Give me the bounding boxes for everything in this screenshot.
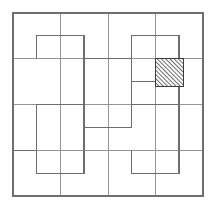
hatched-cell-group[interactable] xyxy=(156,59,184,87)
figure-root xyxy=(0,0,215,209)
tiling-puzzle-diagram xyxy=(0,0,215,209)
hatched-cell[interactable] xyxy=(156,59,184,87)
